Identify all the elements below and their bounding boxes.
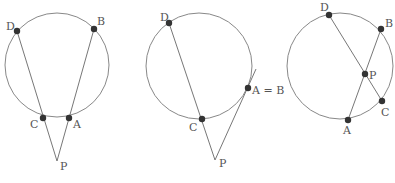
point-label: C	[381, 106, 389, 119]
point-label: P	[369, 69, 377, 82]
point-label: D	[6, 20, 15, 33]
point-label: B	[97, 15, 105, 28]
point-dot	[345, 117, 351, 123]
point-label: P	[60, 160, 68, 173]
panel-external-secants: DBCAP	[5, 13, 109, 173]
circle	[146, 13, 252, 119]
point-label: B	[385, 17, 393, 30]
panel-intersecting-chords: DBPCA	[287, 1, 393, 137]
segment-DP	[169, 23, 215, 160]
point-dot	[378, 26, 384, 32]
segment-DP	[17, 31, 57, 161]
power-of-point-diagram: DBCAPDCA = BPDBPCA	[0, 0, 395, 183]
point-dot	[66, 115, 72, 121]
point-label: C	[189, 121, 197, 134]
circle	[287, 13, 393, 119]
point-dot	[245, 85, 251, 91]
point-label: C	[30, 118, 38, 131]
point-dot	[379, 98, 385, 104]
segment-BP	[57, 29, 94, 161]
point-label: A = B	[251, 84, 284, 97]
point-label: A	[342, 124, 352, 137]
panel-secant-tangent: DCA = BP	[146, 11, 284, 170]
point-label: D	[320, 1, 329, 14]
point-label: P	[219, 157, 227, 170]
point-dot	[40, 115, 46, 121]
point-label: A	[72, 118, 82, 131]
point-dot	[362, 71, 368, 77]
diagram-svg: DBCAPDCA = BPDBPCA	[0, 0, 395, 183]
point-dot	[199, 116, 205, 122]
point-label: D	[160, 11, 169, 24]
segment-DC	[329, 15, 382, 101]
